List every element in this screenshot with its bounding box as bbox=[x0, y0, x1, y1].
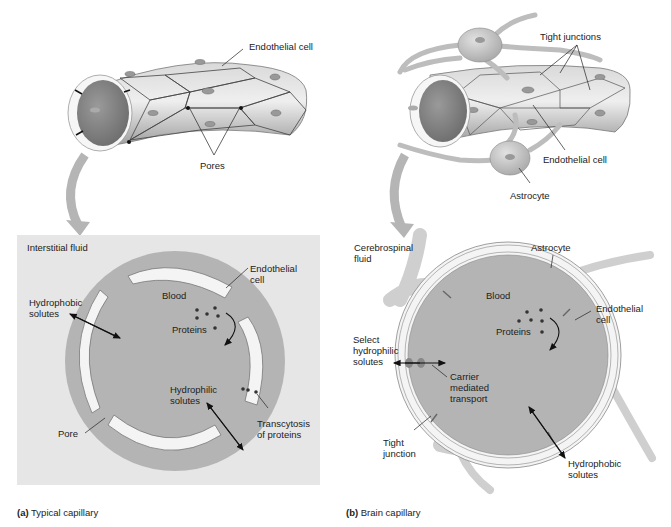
label-endothelial-cell-a: Endothelial cell bbox=[249, 41, 313, 52]
label-proteins-b: Proteins bbox=[496, 326, 531, 337]
label-blood-a: Blood bbox=[162, 290, 186, 301]
label-endothelial-cell-a2: Endothelial cell bbox=[250, 263, 297, 285]
label-astrocyte-top: Astrocyte bbox=[510, 190, 550, 201]
caption-a-letter: (a) bbox=[17, 507, 29, 518]
label-endothelial-cell-b2: Endothelial cell bbox=[596, 303, 643, 325]
label-hydrophobic-a: Hydrophobic solutes bbox=[29, 297, 82, 319]
label-proteins-a: Proteins bbox=[172, 324, 207, 335]
caption-b-text: Brain capillary bbox=[361, 507, 421, 518]
label-interstitial-fluid: Interstitial fluid bbox=[27, 242, 88, 253]
label-hydrophobic-b: Hydrophobic solutes bbox=[568, 458, 621, 480]
label-carrier-mediated: Carrier mediated transport bbox=[450, 371, 489, 404]
caption-b: (b) Brain capillary bbox=[346, 507, 420, 518]
diagram-canvas bbox=[0, 0, 671, 527]
brain-capillary-tube bbox=[390, 15, 630, 238]
label-astrocyte-b: Astrocyte bbox=[531, 242, 571, 253]
label-hydrophilic-a: Hydrophilic solutes bbox=[170, 384, 217, 406]
label-transcytosis: Transcytosis of proteins bbox=[257, 418, 310, 440]
brain-capillary-cross-section bbox=[390, 235, 652, 490]
label-pores: Pores bbox=[200, 160, 225, 171]
label-cerebrospinal-fluid: Cerebrospinal fluid bbox=[354, 242, 413, 264]
caption-b-letter: (b) bbox=[346, 507, 358, 518]
label-pore: Pore bbox=[58, 428, 78, 439]
typical-capillary-tube bbox=[66, 49, 307, 236]
caption-a-text: Typical capillary bbox=[31, 507, 98, 518]
label-select-hydrophilic: Select hydrophilic solutes bbox=[353, 334, 398, 367]
label-endothelial-cell-b: Endothelial cell bbox=[543, 154, 607, 165]
label-blood-b: Blood bbox=[486, 290, 510, 301]
label-tight-junctions: Tight junctions bbox=[540, 31, 601, 42]
caption-a: (a) Typical capillary bbox=[17, 507, 98, 518]
label-tight-junction: Tight junction bbox=[383, 437, 416, 459]
